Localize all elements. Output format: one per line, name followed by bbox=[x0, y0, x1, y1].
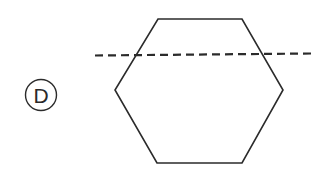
hexagon-shape bbox=[115, 19, 283, 163]
diagram-canvas: D bbox=[0, 0, 328, 171]
dashed-fold-line bbox=[95, 54, 311, 56]
option-letter: D bbox=[25, 79, 57, 111]
